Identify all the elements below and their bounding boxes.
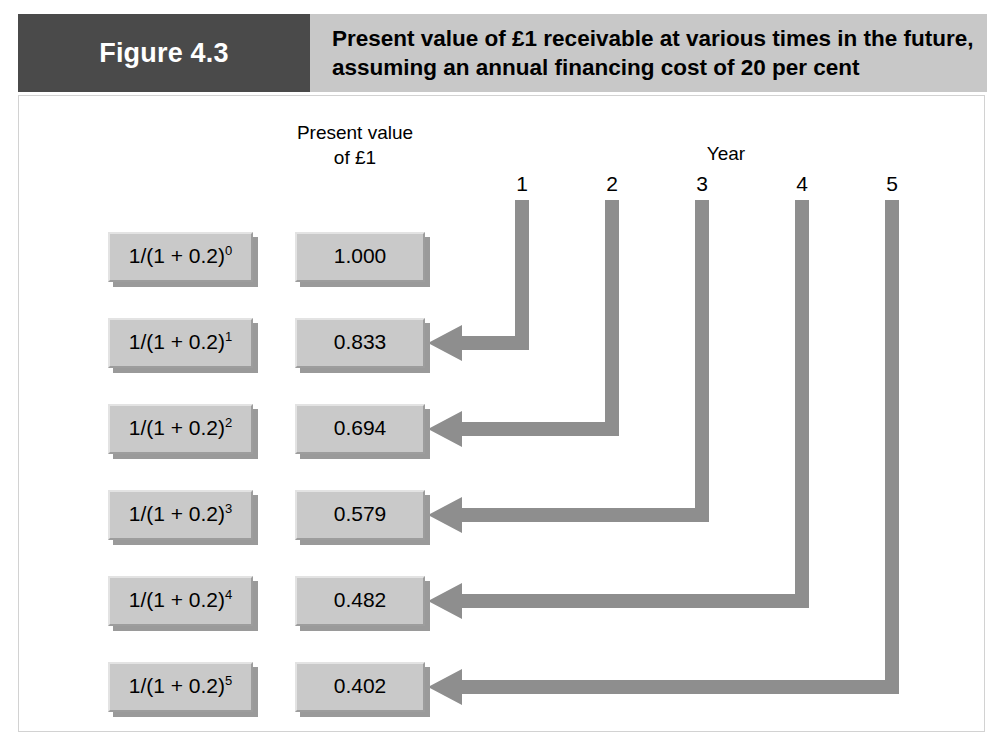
present-value-text-row-5: 0.402 [334, 674, 387, 698]
formula-text-row-5: 1/(1 + 0.2)5 [129, 674, 233, 698]
present-value-box-row-4: 0.482 [295, 576, 425, 626]
formula-exponent-row-5: 5 [225, 673, 232, 688]
formula-text-row-4: 1/(1 + 0.2)4 [129, 588, 233, 612]
present-value-box-row-3: 0.579 [295, 490, 425, 540]
present-value-text-row-4: 0.482 [334, 588, 387, 612]
formula-base-row-4: 1/(1 + 0.2) [129, 588, 225, 611]
formula-text-row-2: 1/(1 + 0.2)2 [129, 416, 233, 440]
formula-base-row-1: 1/(1 + 0.2) [129, 330, 225, 353]
present-value-column-heading: Present value of £1 [265, 120, 445, 170]
formula-text-row-1: 1/(1 + 0.2)1 [129, 330, 233, 354]
formula-box-row-1: 1/(1 + 0.2)1 [108, 318, 253, 368]
formula-base-row-3: 1/(1 + 0.2) [129, 502, 225, 525]
present-value-box-row-1: 0.833 [295, 318, 425, 368]
present-value-text-row-1: 0.833 [334, 330, 387, 354]
formula-box-row-3: 1/(1 + 0.2)3 [108, 490, 253, 540]
formula-base-row-5: 1/(1 + 0.2) [129, 674, 225, 697]
formula-text-row-3: 1/(1 + 0.2)3 [129, 502, 233, 526]
year-label-1: 1 [497, 172, 547, 196]
present-value-heading-line-2: of £1 [265, 145, 445, 170]
formula-base-row-2: 1/(1 + 0.2) [129, 416, 225, 439]
formula-box-row-0: 1/(1 + 0.2)0 [108, 232, 253, 282]
formula-exponent-row-0: 0 [225, 243, 232, 258]
year-label-5: 5 [867, 172, 917, 196]
formula-exponent-row-4: 4 [225, 587, 232, 602]
discount-arrow-year-1 [428, 200, 529, 361]
present-value-text-row-0: 1.000 [334, 244, 387, 268]
formula-box-row-5: 1/(1 + 0.2)5 [108, 662, 253, 712]
year-axis-heading: Year [686, 143, 766, 165]
arrow-layer [0, 0, 1005, 749]
discount-arrow-year-3 [428, 200, 709, 533]
formula-box-row-4: 1/(1 + 0.2)4 [108, 576, 253, 626]
figure-container: Figure 4.3 Present value of £1 receivabl… [0, 0, 1005, 749]
present-value-heading-line-1: Present value [265, 120, 445, 145]
formula-text-row-0: 1/(1 + 0.2)0 [129, 244, 233, 268]
present-value-box-row-0: 1.000 [295, 232, 425, 282]
formula-box-row-2: 1/(1 + 0.2)2 [108, 404, 253, 454]
year-label-4: 4 [777, 172, 827, 196]
present-value-text-row-2: 0.694 [334, 416, 387, 440]
present-value-box-row-2: 0.694 [295, 404, 425, 454]
formula-base-row-0: 1/(1 + 0.2) [129, 244, 225, 267]
present-value-text-row-3: 0.579 [334, 502, 387, 526]
formula-exponent-row-2: 2 [225, 415, 232, 430]
present-value-box-row-5: 0.402 [295, 662, 425, 712]
year-label-3: 3 [677, 172, 727, 196]
formula-exponent-row-1: 1 [225, 329, 232, 344]
discount-arrow-year-5 [428, 200, 899, 705]
formula-exponent-row-3: 3 [225, 501, 232, 516]
year-label-2: 2 [587, 172, 637, 196]
